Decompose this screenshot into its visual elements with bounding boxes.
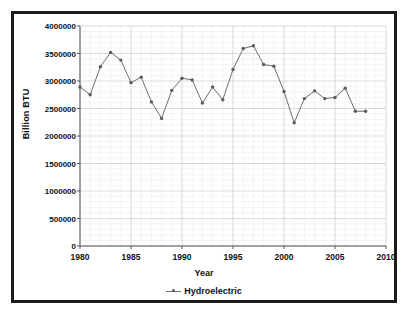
chart-figure-inner: Billion BTU 0500000100000015000002000000… [14, 14, 394, 300]
chart-figure: Billion BTU 0500000100000015000002000000… [11, 11, 397, 303]
line-dot-marker-icon [166, 287, 181, 296]
plot-area [14, 14, 394, 300]
legend-entry-hydroelectric: Hydroelectric [184, 286, 242, 296]
x-axis-title: Year [14, 268, 394, 278]
chart-legend: Hydroelectric [14, 286, 394, 296]
